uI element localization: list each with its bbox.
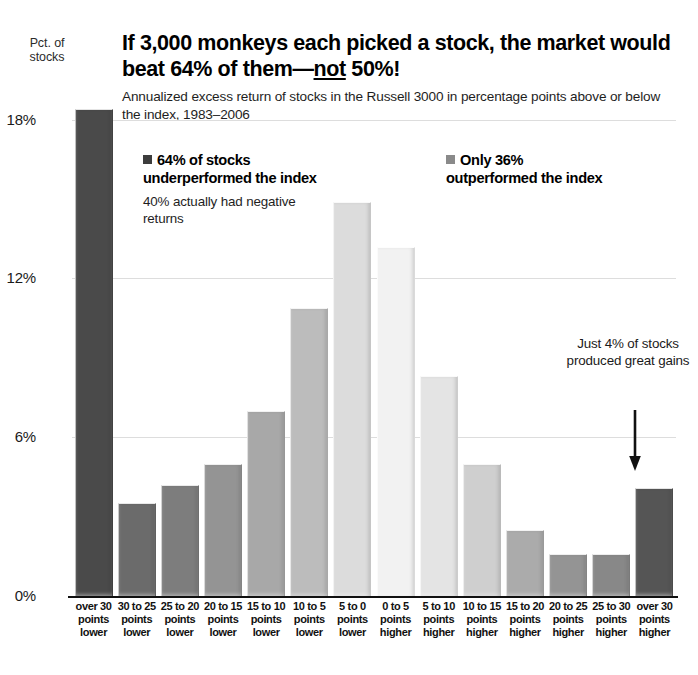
- bar: [75, 109, 113, 596]
- bar: [377, 247, 415, 596]
- y-axis-unit-label: Pct. ofstocks: [18, 36, 76, 64]
- bar: [290, 308, 328, 596]
- x-tick-label: 5 to 10pointshigher: [414, 600, 463, 640]
- x-tick-label-line: lower: [69, 626, 118, 639]
- bar: [506, 530, 544, 596]
- chart-title: If 3,000 monkeys each picked a stock, th…: [122, 30, 682, 82]
- annotation-negative-returns: 40% actually had negative returns: [143, 194, 323, 227]
- x-tick-label-line: points: [500, 613, 549, 626]
- x-tick-label-line: 15 to 20: [500, 600, 549, 613]
- annotation-underperformed-headline: 64% of stocks underperformed the index: [143, 152, 323, 187]
- chart-title-part2: 50%!: [346, 57, 400, 81]
- down-arrow-icon: [628, 410, 642, 472]
- x-tick-label-line: lower: [155, 626, 204, 639]
- x-tick-label: 0 to 5pointshigher: [371, 600, 420, 640]
- x-tick-label-line: 5 to 10: [414, 600, 463, 613]
- y-axis-unit-line: Pct. of: [18, 36, 76, 50]
- x-tick-label-line: points: [457, 613, 506, 626]
- x-tick-label-line: 15 to 10: [242, 600, 291, 613]
- x-tick-label-line: higher: [630, 626, 679, 639]
- annotation-great-gains: Just 4% of stocks produced great gains: [566, 336, 690, 370]
- x-tick-label-line: over 30: [69, 600, 118, 613]
- x-tick-label-line: points: [285, 613, 334, 626]
- annotation-outperformed: Only 36% outperformed the index: [446, 152, 606, 187]
- x-tick-label-line: points: [587, 613, 636, 626]
- annotation-outperformed-text: Only 36% outperformed the index: [446, 152, 602, 186]
- chart-title-emphasis: not: [314, 57, 346, 81]
- x-tick-label-line: 10 to 15: [457, 600, 506, 613]
- x-tick-label-line: higher: [414, 626, 463, 639]
- x-tick-label: 20 to 25pointshigher: [544, 600, 593, 640]
- x-tick-label-line: lower: [198, 626, 247, 639]
- x-tick-label-line: points: [242, 613, 291, 626]
- x-tick-label-line: points: [112, 613, 161, 626]
- legend-swatch-underperformed: [143, 155, 152, 164]
- y-tick-label: 12%: [0, 269, 36, 286]
- x-tick-label: 15 to 20pointshigher: [500, 600, 549, 640]
- x-tick-label-line: points: [414, 613, 463, 626]
- bar: [549, 554, 587, 596]
- x-tick-label-line: 10 to 5: [285, 600, 334, 613]
- bar: [204, 464, 242, 596]
- x-tick-label-line: points: [69, 613, 118, 626]
- x-tick-label-line: points: [198, 613, 247, 626]
- bar: [161, 485, 199, 596]
- x-tick-label-line: 30 to 25: [112, 600, 161, 613]
- x-tick-label-line: higher: [500, 626, 549, 639]
- x-tick-label: 25 to 20pointslower: [155, 600, 204, 640]
- bar: [463, 464, 501, 596]
- x-axis-tick-labels: over 30pointslower30 to 25pointslower25 …: [72, 600, 676, 660]
- x-tick-label-line: 20 to 15: [198, 600, 247, 613]
- annotation-underperformed: 64% of stocks underperformed the index 4…: [143, 152, 323, 227]
- x-tick-label-line: 5 to 0: [328, 600, 377, 613]
- x-tick-label: 20 to 15pointslower: [198, 600, 247, 640]
- x-tick-label-line: lower: [112, 626, 161, 639]
- x-tick-label-line: points: [155, 613, 204, 626]
- annotation-underperformed-text: 64% of stocks underperformed the index: [143, 152, 317, 186]
- x-tick-label-line: 0 to 5: [371, 600, 420, 613]
- x-tick-label-line: lower: [285, 626, 334, 639]
- bar: [420, 376, 458, 596]
- x-tick-label-line: points: [328, 613, 377, 626]
- y-tick-label: 0%: [0, 587, 36, 604]
- x-tick-label: 10 to 15pointshigher: [457, 600, 506, 640]
- x-axis-baseline: [68, 596, 678, 598]
- x-tick-label: 5 to 0pointslower: [328, 600, 377, 640]
- x-tick-label-line: higher: [371, 626, 420, 639]
- x-tick-label: over 30pointshigher: [630, 600, 679, 640]
- annotation-outperformed-headline: Only 36% outperformed the index: [446, 152, 606, 187]
- x-tick-label-line: lower: [328, 626, 377, 639]
- x-tick-label-line: 25 to 20: [155, 600, 204, 613]
- x-tick-label-line: 20 to 25: [544, 600, 593, 613]
- x-tick-label-line: higher: [544, 626, 593, 639]
- x-tick-label: 15 to 10pointslower: [242, 600, 291, 640]
- bar: [592, 554, 630, 596]
- x-tick-label-line: points: [630, 613, 679, 626]
- x-tick-label: 10 to 5pointslower: [285, 600, 334, 640]
- y-axis-unit-line: stocks: [18, 50, 76, 64]
- bar: [333, 202, 371, 596]
- x-tick-label-line: points: [371, 613, 420, 626]
- x-tick-label-line: points: [544, 613, 593, 626]
- x-tick-label: over 30pointslower: [69, 600, 118, 640]
- x-tick-label: 30 to 25pointslower: [112, 600, 161, 640]
- legend-swatch-outperformed: [446, 155, 455, 164]
- bar: [247, 411, 285, 596]
- x-tick-label-line: lower: [242, 626, 291, 639]
- x-tick-label-line: 25 to 30: [587, 600, 636, 613]
- x-tick-label: 25 to 30pointshigher: [587, 600, 636, 640]
- chart-figure: Pct. ofstocks If 3,000 monkeys each pick…: [0, 0, 698, 675]
- bar: [635, 488, 673, 596]
- y-tick-label: 18%: [0, 111, 36, 128]
- x-tick-label-line: higher: [457, 626, 506, 639]
- y-tick-label: 6%: [0, 428, 36, 445]
- x-tick-label-line: over 30: [630, 600, 679, 613]
- x-tick-label-line: higher: [587, 626, 636, 639]
- bar: [118, 503, 156, 596]
